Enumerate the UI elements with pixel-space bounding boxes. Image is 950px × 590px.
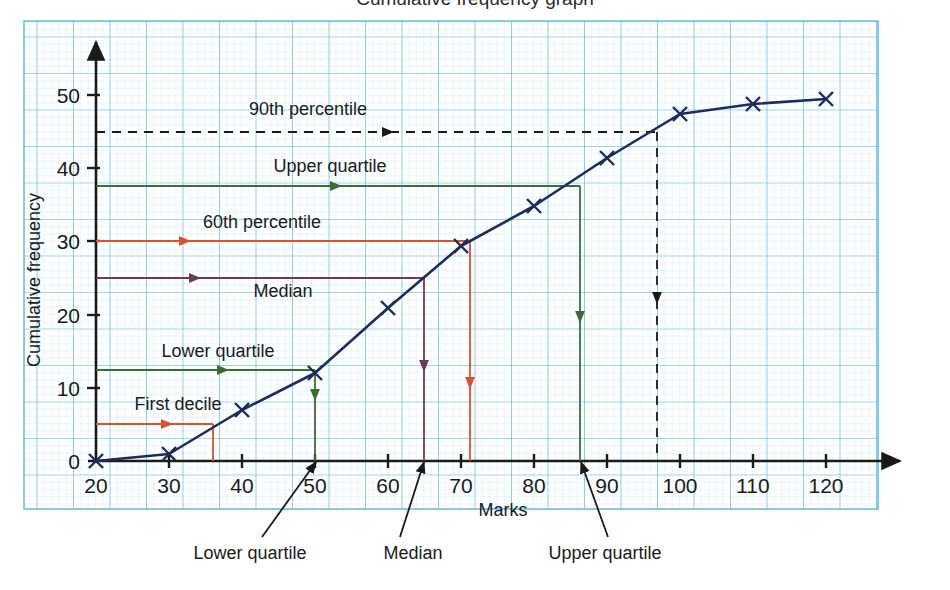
callout-labels: Lower quartile Median Upper quartile [193,543,661,563]
x-tick-100: 100 [662,474,697,497]
label-median: Median [253,281,312,301]
cumulative-frequency-graph: 0 10 20 30 40 50 20 30 40 50 60 70 80 90… [0,0,950,590]
chart-canvas: Cumulative frequency graph [0,0,950,590]
x-tick-120: 120 [808,474,843,497]
label-90th-percentile: 90th percentile [249,99,367,119]
x-tick-70: 70 [449,474,472,497]
x-tick-110: 110 [736,474,769,497]
y-tick-10: 10 [57,377,80,400]
label-upper-quartile: Upper quartile [273,156,386,176]
label-first-decile: First decile [134,394,221,414]
x-tick-40: 40 [230,474,253,497]
x-axis-title: Marks [479,500,528,520]
y-tick-20: 20 [57,304,80,327]
x-tick-30: 30 [157,474,180,497]
y-tick-40: 40 [57,157,80,180]
callout-lower-quartile: Lower quartile [193,543,306,563]
callout-upper-quartile: Upper quartile [548,543,661,563]
y-tick-30: 30 [57,230,80,253]
label-60th-percentile: 60th percentile [203,212,321,232]
label-lower-quartile: Lower quartile [161,341,274,361]
y-tick-50: 50 [57,84,80,107]
x-tick-80: 80 [522,474,545,497]
x-tick-90: 90 [595,474,618,497]
y-tick-0: 0 [68,450,80,473]
graph-paper-grid [24,21,878,509]
callout-median: Median [383,543,442,563]
x-tick-20: 20 [84,474,107,497]
x-tick-50: 50 [303,474,326,497]
x-tick-60: 60 [376,474,399,497]
y-axis-title: Cumulative frequency [24,193,44,367]
